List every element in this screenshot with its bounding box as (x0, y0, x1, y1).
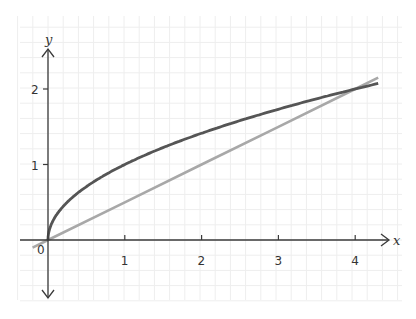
y-tick-label: 1 (31, 159, 39, 173)
origin-label: 0 (37, 243, 45, 257)
grid (18, 16, 402, 301)
x-tick-label: 1 (121, 254, 129, 268)
x-tick-label: 3 (274, 254, 282, 268)
x-axis-label: x (393, 233, 401, 248)
y-axis-label: y (44, 32, 53, 47)
y-tick-label: 2 (31, 83, 39, 97)
chart-canvas: 123412 x y 0 (0, 0, 416, 319)
x-tick-label: 4 (351, 254, 359, 268)
x-tick-label: 2 (198, 254, 206, 268)
